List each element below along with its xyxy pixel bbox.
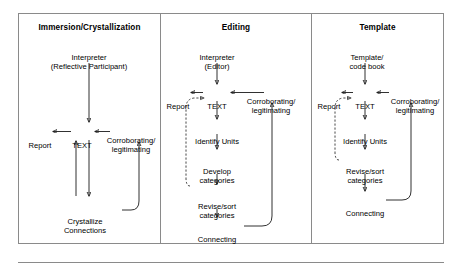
node-corroborating-line1: Corroborating/ xyxy=(247,97,296,106)
node-crystallize-line1: Crystallize xyxy=(64,217,106,226)
node-interpreter-line2: (Editor) xyxy=(199,62,234,71)
node-report-editing: Report xyxy=(167,102,190,111)
panel-title-editing: Editing xyxy=(161,23,311,32)
node-connecting-template: Connecting xyxy=(346,209,384,218)
node-interpreter-editing: Interpreter (Editor) xyxy=(199,53,234,72)
node-interpreter-line1: Interpreter xyxy=(51,53,127,62)
node-corroborating-line1: Corroborating/ xyxy=(391,97,440,106)
node-crystallize-connections: Crystallize Connections xyxy=(64,217,106,236)
node-develop-line2: categories xyxy=(199,176,234,185)
node-source-line2: code book xyxy=(349,62,384,71)
node-crystallize-line2: Connections xyxy=(64,226,106,235)
panel-title-immersion: Immersion/Crystallization xyxy=(19,23,160,32)
node-revise-line1: Revise/sort xyxy=(198,202,236,211)
node-connecting-editing: Connecting xyxy=(198,235,236,244)
node-develop-line1: Develop xyxy=(199,167,234,176)
node-revise-sort-categories-editing: Revise/sort categories xyxy=(198,202,236,221)
node-develop-categories: Develop categories xyxy=(199,167,234,186)
node-corroborating-line2: legitimating xyxy=(391,106,440,115)
node-source-line1: Template/ xyxy=(349,53,384,62)
node-corroborating-line2: legitimating xyxy=(247,106,296,115)
node-revise-line1: Revise/sort xyxy=(346,167,384,176)
node-identify-units-template: Identify Units xyxy=(343,137,387,146)
node-text-template: TEXT xyxy=(355,102,374,111)
node-corroborating-immersion: Corroborating/ legitimating xyxy=(107,136,156,155)
panel-template: Template Template/ code book Report TEXT… xyxy=(312,13,443,244)
node-report-template: Report xyxy=(318,102,341,111)
node-interpreter-line1: Interpreter xyxy=(199,53,234,62)
panel-title-template: Template xyxy=(312,23,443,32)
figure-bottom-rule xyxy=(18,262,444,263)
figure-diagram: Immersion/Crystallization Interpreter (R… xyxy=(0,0,463,276)
node-interpreter-immersion: Interpreter (Reflective Participant) xyxy=(51,53,127,72)
node-text-editing: TEXT xyxy=(207,102,226,111)
node-text-immersion: TEXT xyxy=(72,141,91,150)
node-identify-units-editing: Identify Units xyxy=(195,137,239,146)
node-report-immersion: Report xyxy=(29,141,52,150)
node-corroborating-line1: Corroborating/ xyxy=(107,136,156,145)
node-corroborating-line2: legitimating xyxy=(107,145,156,154)
node-revise-sort-categories-template: Revise/sort categories xyxy=(346,167,384,186)
node-template-code-book: Template/ code book xyxy=(349,53,384,72)
panel-immersion-crystallization: Immersion/Crystallization Interpreter (R… xyxy=(19,13,160,244)
node-corroborating-template: Corroborating/ legitimating xyxy=(391,97,440,116)
node-revise-line2: categories xyxy=(198,211,236,220)
node-interpreter-line2: (Reflective Participant) xyxy=(51,62,127,71)
node-revise-line2: categories xyxy=(346,176,384,185)
node-corroborating-editing: Corroborating/ legitimating xyxy=(247,97,296,116)
panel-editing: Editing Interpreter (Editor) Report TEXT… xyxy=(161,13,311,244)
